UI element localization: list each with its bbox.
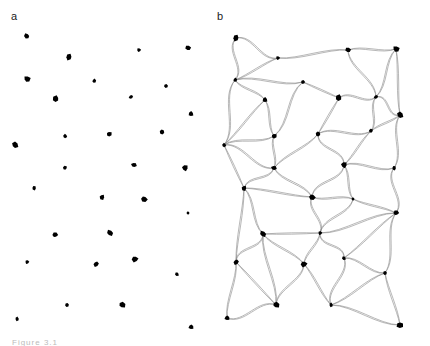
network-link: [244, 188, 263, 234]
network-link: [376, 49, 396, 97]
network-link: [274, 168, 312, 197]
network-link: [244, 188, 263, 234]
network-link: [318, 134, 344, 165]
network-link: [274, 82, 303, 136]
network-link: [227, 304, 276, 319]
cell-dot: [233, 35, 238, 42]
network-link: [263, 234, 277, 305]
network-link: [236, 38, 278, 59]
network-link: [348, 50, 376, 97]
network-link: [276, 264, 304, 305]
network-link: [236, 234, 263, 262]
cell-dot: [319, 231, 323, 235]
network-link: [310, 197, 320, 233]
network-link: [320, 233, 344, 258]
network-link: [376, 97, 400, 116]
network-link: [224, 145, 244, 188]
network-link: [320, 199, 353, 233]
network-link: [318, 98, 339, 134]
network-link: [278, 50, 348, 59]
cell-dot: [225, 316, 230, 321]
network-link: [344, 258, 385, 273]
network-link: [224, 145, 244, 188]
cell-dot: [276, 56, 280, 60]
cell-dot: [336, 94, 341, 101]
network-link: [376, 49, 396, 97]
network-link: [385, 213, 396, 273]
network-link: [274, 134, 318, 168]
cell-dot: [397, 323, 403, 328]
figure-caption: Figure 3.1: [12, 338, 58, 346]
network-link: [303, 82, 339, 98]
network-link: [348, 50, 376, 97]
network-link: [318, 134, 344, 165]
network-link: [376, 97, 400, 116]
network-link: [344, 165, 353, 199]
network-link: [227, 304, 276, 319]
network-link: [320, 233, 344, 258]
network-link: [344, 165, 353, 199]
network-link: [312, 165, 344, 197]
network-link: [330, 258, 345, 305]
cell-dot: [309, 195, 316, 201]
network-link: [385, 213, 396, 273]
cell-dot: [260, 231, 266, 237]
network-link: [303, 82, 339, 98]
cell-dot: [272, 134, 277, 139]
cell-dot: [271, 166, 277, 170]
network-link: [304, 233, 320, 264]
network-link: [339, 95, 376, 100]
network-link: [236, 37, 278, 58]
network-link: [227, 262, 236, 318]
network-link: [224, 145, 274, 168]
network-link: [274, 168, 312, 197]
network-link: [344, 258, 385, 273]
network-link: [274, 82, 303, 136]
network-link: [236, 234, 263, 262]
network-link: [244, 168, 274, 188]
network-link: [244, 168, 274, 188]
network-link: [330, 258, 345, 305]
network-link: [274, 134, 318, 168]
network-link: [263, 234, 304, 264]
network-link: [227, 262, 236, 318]
network-link: [339, 96, 376, 101]
network-link: [276, 264, 304, 305]
network-link: [278, 50, 348, 59]
network-link: [235, 80, 265, 100]
network-link: [235, 80, 265, 100]
cell-dot: [369, 129, 373, 133]
network-link: [265, 100, 274, 136]
network-link: [331, 305, 400, 325]
cell-dot: [274, 302, 280, 308]
cell-dot: [242, 186, 246, 191]
network-link: [318, 98, 339, 134]
network-link: [265, 100, 274, 136]
network-link: [263, 234, 304, 264]
network-link: [304, 233, 320, 264]
network-link: [312, 165, 344, 197]
network-link: [224, 145, 274, 168]
network-link: [331, 305, 400, 325]
cell-dot: [345, 48, 351, 52]
network-link: [320, 199, 353, 233]
panel-b-network: [0, 0, 430, 346]
network-link: [311, 197, 321, 233]
